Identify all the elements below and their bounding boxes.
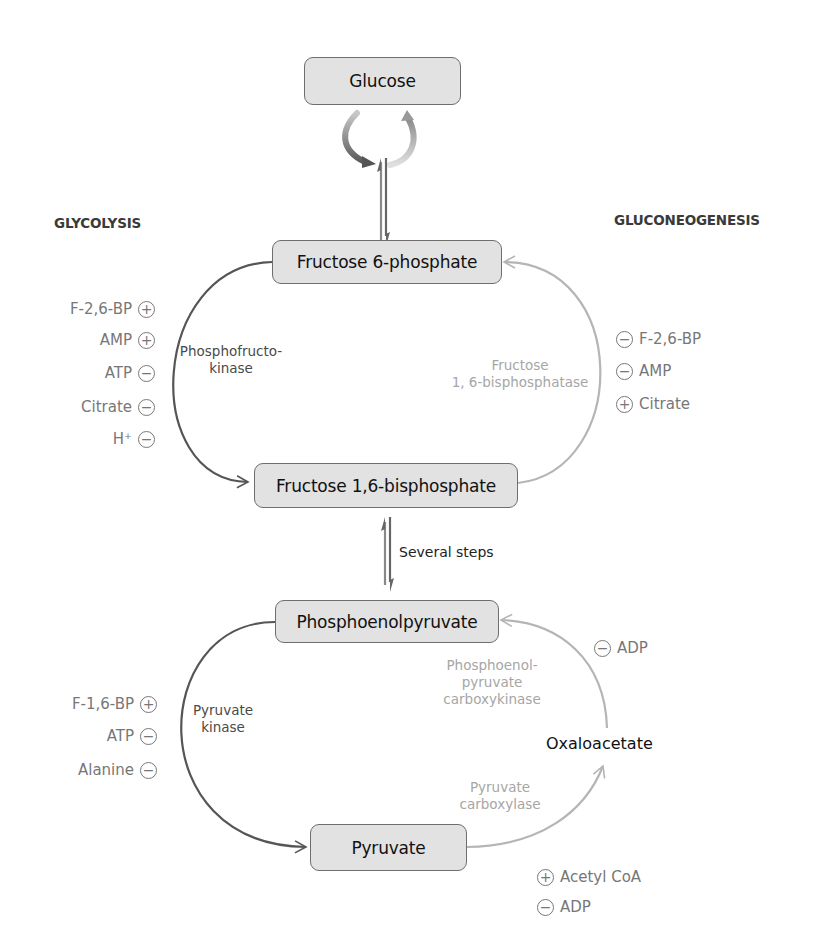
activator-plus-icon: + (537, 869, 554, 886)
pyruvate-carboxylase-label: Pyruvate carboxylase (450, 779, 550, 813)
activator-plus-icon: + (616, 396, 633, 413)
enzyme-line: carboxylase (450, 796, 550, 813)
regulator-name: F-2,6-BP (70, 300, 132, 318)
inhibitor-minus-icon: − (616, 331, 633, 348)
pk-regulator: Alanine− (78, 759, 157, 781)
glycolysis-gluconeogenesis-diagram: GLYCOLYSIS GLUCONEOGENESIS Glucose Fruct… (0, 0, 825, 940)
inhibitor-minus-icon: − (140, 762, 157, 779)
regulator-name: Citrate (81, 398, 132, 416)
activator-plus-icon: + (138, 301, 155, 318)
regulator-name: AMP (639, 362, 671, 380)
enzyme-line: kinase (175, 360, 287, 377)
regulator-name: H⁺ (113, 430, 132, 448)
pepck-regulator: −ADP (594, 637, 648, 659)
pyruvate-kinase-label: Pyruvate kinase (178, 702, 268, 736)
inhibitor-minus-icon: − (138, 365, 155, 382)
pfk-regulator: AMP+ (100, 329, 155, 351)
enzyme-line: Fructose (440, 357, 600, 374)
regulator-name: Citrate (639, 395, 690, 413)
enzyme-line: Pyruvate (178, 702, 268, 719)
gluconeogenesis-header: GLUCONEOGENESIS (614, 212, 760, 228)
activator-plus-icon: + (138, 332, 155, 349)
glucose-box: Glucose (304, 57, 461, 105)
fructose-bisphosphatase-label: Fructose 1, 6-bisphosphatase (440, 357, 600, 391)
regulator-name: ATP (105, 364, 132, 382)
enzyme-line: carboxykinase (432, 691, 552, 708)
inhibitor-minus-icon: − (138, 431, 155, 448)
inhibitor-minus-icon: − (140, 728, 157, 745)
pfk-regulator: F-2,6-BP+ (70, 298, 155, 320)
activator-plus-icon: + (140, 696, 157, 713)
pfk-regulator: Citrate− (81, 396, 155, 418)
enzyme-line: pyruvate (432, 674, 552, 691)
inhibitor-minus-icon: − (616, 363, 633, 380)
glucose-cycle-arrows (345, 110, 414, 168)
regulator-name: F-1,6-BP (72, 695, 134, 713)
oxaloacetate-label: Oxaloacetate (546, 734, 653, 753)
phosphofructokinase-label: Phosphofructo- kinase (175, 343, 287, 377)
glucose-f6p-double-arrow (377, 158, 390, 248)
pc-regulator: +Acetyl CoA (537, 866, 641, 888)
fructose-1-6-bisphosphate-box: Fructose 1,6-bisphosphate (254, 463, 518, 508)
several-steps-label: Several steps (399, 544, 494, 560)
enzyme-line: Pyruvate (450, 779, 550, 796)
pyruvate-box: Pyruvate (310, 824, 467, 871)
regulator-name: ADP (560, 898, 591, 916)
regulator-name: AMP (100, 331, 132, 349)
inhibitor-minus-icon: − (594, 640, 611, 657)
enzyme-line: Phosphofructo- (175, 343, 287, 360)
several-steps-double-arrow (381, 517, 394, 592)
glycolysis-header: GLYCOLYSIS (54, 215, 141, 231)
inhibitor-minus-icon: − (138, 399, 155, 416)
regulator-name: ATP (107, 727, 134, 745)
pk-regulator: ATP− (107, 725, 157, 747)
phosphoenolpyruvate-box: Phosphoenolpyruvate (275, 600, 499, 643)
pc-regulator: −ADP (537, 896, 591, 918)
fbpase-regulator: −AMP (616, 360, 671, 382)
regulator-name: F-2,6-BP (639, 330, 701, 348)
enzyme-line: 1, 6-bisphosphatase (440, 374, 600, 391)
fructose-6-phosphate-box: Fructose 6-phosphate (272, 240, 502, 284)
fbpase-regulator: +Citrate (616, 393, 690, 415)
pk-regulator: F-1,6-BP+ (72, 693, 157, 715)
pep-carboxykinase-label: Phosphoenol- pyruvate carboxykinase (432, 657, 552, 708)
regulator-name: Acetyl CoA (560, 868, 641, 886)
pfk-regulator: ATP− (105, 362, 155, 384)
pfk-regulator: H⁺− (113, 428, 155, 450)
enzyme-line: kinase (178, 719, 268, 736)
regulator-name: Alanine (78, 761, 134, 779)
regulator-name: ADP (617, 639, 648, 657)
inhibitor-minus-icon: − (537, 899, 554, 916)
fbpase-regulator: −F-2,6-BP (616, 328, 701, 350)
enzyme-line: Phosphoenol- (432, 657, 552, 674)
